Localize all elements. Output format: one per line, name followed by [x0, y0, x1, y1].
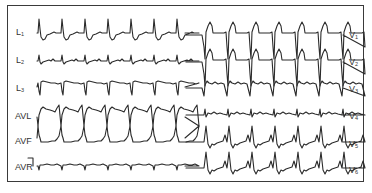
lead-label-avf: AVF: [15, 137, 32, 146]
trace-v5: [186, 126, 365, 148]
trace-v4: [186, 109, 365, 117]
lead-label-l2: L2: [16, 56, 24, 66]
trace-avl: [37, 105, 199, 126]
ecg-traces: [0, 0, 372, 193]
lead-label-l3: L3: [16, 84, 24, 94]
trace-avf: [37, 126, 199, 142]
trace-v6: [186, 152, 365, 174]
lead-label-v3: V3: [349, 85, 358, 95]
trace-v1: [186, 22, 365, 59]
lead-label-v4: V4: [349, 112, 358, 122]
trace-l1: [37, 19, 199, 40]
lead-label-v1: V1: [349, 31, 358, 41]
lead-label-l1: L1: [16, 28, 24, 38]
trace-avr: [37, 164, 199, 170]
trace-l2: [37, 55, 199, 64]
trace-v2: [186, 49, 365, 86]
trace-l3: [37, 81, 199, 95]
trace-v3: [186, 81, 365, 96]
lead-label-avr: AVR: [15, 163, 33, 172]
lead-label-v5: V5: [349, 140, 358, 150]
lead-label-avl: AVL: [15, 112, 31, 121]
lead-label-v6: V6: [349, 166, 358, 176]
lead-label-v2: V2: [349, 58, 358, 68]
